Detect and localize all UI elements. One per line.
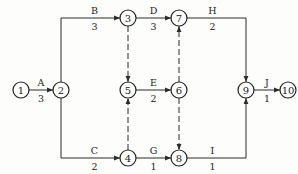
activity-name-label: J bbox=[264, 77, 269, 88]
node-number-label: 2 bbox=[58, 85, 64, 96]
activity-duration-label: 1 bbox=[209, 161, 215, 172]
activity-arrow-h bbox=[187, 18, 246, 82]
activity-duration-label: 1 bbox=[150, 161, 156, 172]
activity-name-label: D bbox=[150, 5, 158, 16]
nodes-layer: 12345678910 bbox=[13, 10, 296, 166]
event-node-1: 1 bbox=[13, 82, 29, 98]
activity-duration-label: 1 bbox=[264, 93, 270, 104]
network-diagram: A3B3C2D3E2G1H2I1J1 12345678910 bbox=[0, 0, 298, 174]
activity-name-label: E bbox=[150, 77, 157, 88]
event-node-2: 2 bbox=[53, 82, 69, 98]
activity-name-label: G bbox=[150, 145, 158, 156]
event-node-6: 6 bbox=[171, 82, 187, 98]
node-number-label: 10 bbox=[282, 85, 295, 96]
event-node-10: 10 bbox=[280, 82, 296, 98]
event-node-3: 3 bbox=[120, 10, 136, 26]
event-node-8: 8 bbox=[171, 150, 187, 166]
network-diagram-svg: A3B3C2D3E2G1H2I1J1 12345678910 bbox=[0, 0, 298, 174]
activity-duration-label: 2 bbox=[209, 21, 215, 32]
activity-arrow-i bbox=[187, 98, 246, 158]
node-number-label: 5 bbox=[125, 85, 131, 96]
activity-duration-label: 3 bbox=[38, 93, 44, 104]
node-number-label: 4 bbox=[125, 153, 131, 164]
event-node-4: 4 bbox=[120, 150, 136, 166]
activity-name-label: C bbox=[91, 145, 98, 156]
activity-name-label: H bbox=[208, 5, 216, 16]
node-number-label: 3 bbox=[125, 13, 131, 24]
activity-labels-layer: A3B3C2D3E2G1H2I1J1 bbox=[37, 5, 270, 172]
activity-name-label: I bbox=[211, 145, 215, 156]
node-number-label: 1 bbox=[18, 85, 24, 96]
activity-name-label: A bbox=[37, 77, 45, 88]
activity-duration-label: 2 bbox=[91, 161, 97, 172]
node-number-label: 7 bbox=[176, 13, 182, 24]
node-number-label: 8 bbox=[176, 153, 182, 164]
event-node-5: 5 bbox=[120, 82, 136, 98]
node-number-label: 9 bbox=[243, 85, 249, 96]
activity-duration-label: 3 bbox=[150, 21, 156, 32]
event-node-9: 9 bbox=[238, 82, 254, 98]
event-node-7: 7 bbox=[171, 10, 187, 26]
activity-duration-label: 3 bbox=[91, 21, 97, 32]
activity-duration-label: 2 bbox=[150, 93, 156, 104]
activity-name-label: B bbox=[91, 5, 98, 16]
node-number-label: 6 bbox=[176, 85, 182, 96]
